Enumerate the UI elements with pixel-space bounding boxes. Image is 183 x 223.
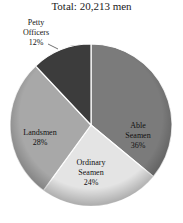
pie-chart: Able Seamen 36% Ordinary Seamen 24% Land…: [0, 0, 183, 223]
slice-label-able-seamen-line1: Able: [130, 121, 146, 130]
slice-label-landsmen: Landsmen: [23, 128, 56, 137]
slice-label-able-seamen-line2: Seamen: [125, 131, 150, 140]
slice-value-able-seamen: 36%: [131, 141, 146, 150]
slice-value-petty-officers: 12%: [29, 38, 44, 47]
slice-value-landsmen: 28%: [33, 138, 48, 147]
slice-value-ordinary-seamen: 24%: [84, 178, 99, 187]
slice-label-petty-officers-line1: Petty: [28, 18, 44, 27]
slice-label-ordinary-seamen-line2: Seamen: [78, 168, 103, 177]
petty-officers-leader-line: [48, 44, 58, 49]
slice-label-ordinary-seamen-line1: Ordinary: [77, 158, 106, 167]
slice-label-petty-officers-line2: Officers: [23, 28, 49, 37]
